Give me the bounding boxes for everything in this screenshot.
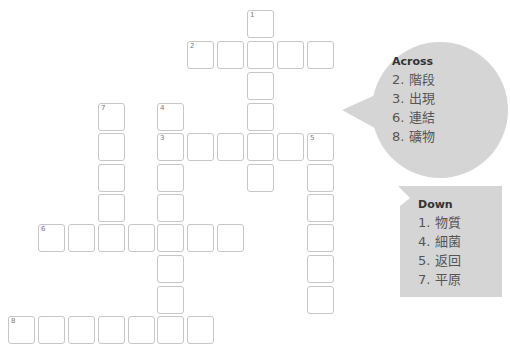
down-clues: Down 1. 物質 4. 細菌 5. 返回 7. 平原: [418, 198, 461, 289]
crossword-cell[interactable]: [307, 224, 334, 252]
down-clue-5: 5. 返回: [418, 251, 461, 270]
crossword-cell[interactable]: [98, 224, 125, 252]
crossword-cell[interactable]: [128, 316, 155, 344]
clue-number: 1: [250, 11, 254, 20]
across-clue-3: 3. 出現: [392, 89, 435, 108]
across-title: Across: [392, 55, 435, 68]
crossword-cell[interactable]: [68, 224, 95, 252]
crossword-cell[interactable]: [187, 224, 214, 252]
down-clue-1: 1. 物質: [418, 213, 461, 232]
clue-number: 5: [310, 134, 314, 143]
down-clue-4: 4. 細菌: [418, 232, 461, 251]
crossword-cell[interactable]: [247, 72, 274, 100]
across-clues-bubble: Across 2. 階段 3. 出現 6. 連結 8. 礦物: [340, 40, 510, 185]
across-clue-6: 6. 連結: [392, 108, 435, 127]
clue-number: 7: [101, 104, 105, 113]
crossword-cell[interactable]: [247, 133, 274, 161]
crossword-cell[interactable]: [157, 255, 184, 283]
crossword-cell[interactable]: [38, 316, 65, 344]
crossword-cell[interactable]: [157, 194, 184, 222]
crossword-cell[interactable]: [217, 41, 244, 69]
crossword-cell[interactable]: [247, 41, 274, 69]
across-clues: Across 2. 階段 3. 出現 6. 連結 8. 礦物: [392, 55, 435, 146]
crossword-cell[interactable]: [157, 316, 184, 344]
crossword-cell[interactable]: [277, 41, 304, 69]
crossword-cell[interactable]: [217, 224, 244, 252]
crossword-cell[interactable]: [128, 224, 155, 252]
crossword-cell-8[interactable]: 8: [8, 316, 35, 344]
crossword-cell[interactable]: [68, 316, 95, 344]
crossword-cell[interactable]: [98, 316, 125, 344]
crossword-cell-4[interactable]: 4: [157, 103, 184, 131]
crossword-cell[interactable]: [307, 41, 334, 69]
down-clues-box: Down 1. 物質 4. 細菌 5. 返回 7. 平原: [396, 186, 504, 298]
clue-number: 3: [160, 134, 164, 143]
crossword-cell-5[interactable]: 5: [307, 133, 334, 161]
crossword-cell[interactable]: [277, 133, 304, 161]
crossword-cell[interactable]: [307, 286, 334, 314]
crossword-cell[interactable]: [187, 133, 214, 161]
clue-number: 6: [41, 225, 45, 234]
crossword-cell-2[interactable]: 2: [187, 41, 214, 69]
clue-number: 8: [11, 317, 15, 326]
crossword-cell[interactable]: [307, 164, 334, 192]
crossword-cell[interactable]: [157, 286, 184, 314]
crossword-cell[interactable]: [157, 164, 184, 192]
clue-number: 2: [190, 42, 194, 51]
crossword-cell[interactable]: [187, 316, 214, 344]
crossword-cell[interactable]: [247, 164, 274, 192]
crossword-cell[interactable]: [98, 133, 125, 161]
clue-number: 4: [160, 104, 164, 113]
crossword-cell[interactable]: [98, 164, 125, 192]
down-clue-7: 7. 平原: [418, 270, 461, 289]
crossword-cell-7[interactable]: 7: [98, 103, 125, 131]
down-title: Down: [418, 198, 461, 211]
crossword-cell[interactable]: [247, 103, 274, 131]
crossword-cell[interactable]: [98, 194, 125, 222]
crossword-cell-3[interactable]: 3: [157, 133, 184, 161]
crossword-cell-1[interactable]: 1: [247, 10, 274, 38]
crossword-cell[interactable]: [307, 194, 334, 222]
crossword-cell[interactable]: [157, 224, 184, 252]
crossword-cell[interactable]: [307, 255, 334, 283]
crossword-cell[interactable]: [217, 133, 244, 161]
across-clue-2: 2. 階段: [392, 70, 435, 89]
across-clue-8: 8. 礦物: [392, 127, 435, 146]
crossword-cell-6[interactable]: 6: [38, 224, 65, 252]
